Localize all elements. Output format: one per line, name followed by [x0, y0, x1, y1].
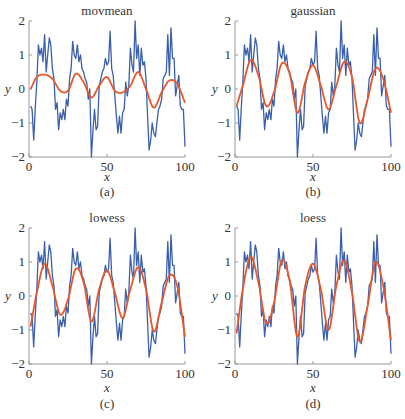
y-tick-label: 0 [225, 81, 232, 96]
x-tick-label: 100 [381, 366, 401, 381]
x-tick-label: 100 [381, 159, 401, 174]
x-tick-label: 0 [232, 159, 239, 174]
y-tick-label: −2 [217, 356, 231, 371]
panel-title: loess [300, 210, 326, 225]
y-tick-label: 1 [19, 47, 26, 62]
y-tick-label: 0 [19, 81, 26, 96]
y-tick-label: 2 [225, 13, 232, 28]
y-tick-label: 2 [19, 220, 26, 235]
x-tick-label: 50 [101, 159, 114, 174]
x-tick-label: 50 [101, 366, 114, 381]
y-tick-label: 0 [19, 288, 26, 303]
y-tick-label: 1 [19, 254, 26, 269]
panel-title: gaussian [291, 3, 336, 18]
y-tick-label: −1 [11, 322, 25, 337]
panel-loess: loess (d) x y 210−1−2050100 [210, 210, 401, 411]
figure: movmean (a) x y 210−1−2050100 gaussian (… [0, 0, 405, 419]
x-tick-label: 0 [26, 366, 33, 381]
y-tick-label: 1 [225, 254, 232, 269]
x-tick-label: 100 [175, 366, 195, 381]
y-tick-label: −1 [11, 115, 25, 130]
y-tick-label: −2 [217, 149, 231, 164]
x-tick-label: 50 [307, 159, 320, 174]
panel-movmean: movmean (a) x y 210−1−2050100 [3, 3, 195, 199]
subcaption: (d) [305, 396, 320, 411]
y-axis-label: y [3, 288, 11, 303]
data-series-line [31, 228, 185, 364]
y-tick-label: −2 [11, 356, 25, 371]
smoothed-series-line [31, 264, 185, 337]
data-series-line [31, 21, 185, 157]
panel-gaussian: gaussian (b) x y 210−1−2050100 [210, 3, 401, 199]
x-axis-label: x [309, 380, 316, 395]
y-axis-label: y [210, 81, 218, 96]
x-tick-label: 100 [175, 159, 195, 174]
y-tick-label: 0 [225, 288, 232, 303]
panel-lowess: lowess (c) x y 210−1−2050100 [3, 210, 195, 411]
x-axis-label: x [103, 380, 110, 395]
y-axis-label: y [210, 288, 218, 303]
x-tick-label: 50 [307, 366, 320, 381]
y-tick-label: −1 [217, 115, 231, 130]
data-series-line [237, 21, 391, 157]
subcaption: (a) [100, 184, 114, 199]
y-tick-label: 1 [225, 47, 232, 62]
x-tick-label: 0 [232, 366, 239, 381]
panel-title: lowess [89, 210, 124, 225]
y-tick-label: 2 [19, 13, 26, 28]
y-tick-label: −1 [217, 322, 231, 337]
subcaption: (b) [305, 184, 320, 199]
data-series-line [237, 228, 391, 364]
y-axis-label: y [3, 81, 11, 96]
y-tick-label: −2 [11, 149, 25, 164]
panel-title: movmean [81, 3, 133, 18]
subcaption: (c) [100, 396, 114, 411]
y-tick-label: 2 [225, 220, 232, 235]
x-tick-label: 0 [26, 159, 33, 174]
